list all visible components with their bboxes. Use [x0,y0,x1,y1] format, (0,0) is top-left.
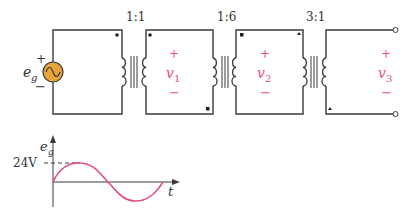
y-axis-arrow-icon [50,135,56,143]
graph-y-label: e [40,139,48,154]
v1-minus: − [169,85,180,100]
v3-subscript: 3 [386,73,392,84]
dot-marker-icon [115,33,119,37]
v3-plus: + [381,47,391,61]
graph-x-label: t [168,184,174,199]
v1-label: v [166,65,174,81]
circuit-diagram: + e g − 1:1 + v 1 − 1:6 + v 2 − [0,0,407,220]
v3-label: v [378,65,386,81]
ratio-2: 1:6 [217,10,236,24]
output-terminal-top[interactable] [393,28,398,33]
source-plus: + [36,52,46,66]
triangle-marker-icon [328,107,332,110]
v3-minus: − [381,85,392,100]
ratio-1: 1:1 [126,10,145,24]
v1-plus: + [169,47,179,61]
v2-label: v [257,65,265,81]
square-marker-icon [206,107,210,111]
v2-subscript: 2 [265,73,271,84]
triangle-marker-icon [297,32,301,35]
graph-y-subscript: g [48,147,54,157]
output-terminal-bottom[interactable] [393,112,398,117]
transformer-3 [297,32,332,110]
waveform-graph [44,135,180,207]
peak-label: 24V [13,156,37,170]
dot-marker-icon [148,33,152,37]
v2-minus: − [260,85,271,100]
square-marker-icon [240,33,244,37]
loop-2-top [146,30,213,58]
v1-subscript: 1 [174,73,180,84]
source-minus: − [35,79,46,94]
v2-plus: + [260,47,270,61]
transformer-2 [206,33,244,111]
ratio-3: 3:1 [306,10,325,24]
